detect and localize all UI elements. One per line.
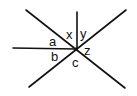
label-angle-b: b xyxy=(51,49,58,64)
label-angle-c: c xyxy=(72,55,79,70)
label-angle-z: z xyxy=(84,43,91,58)
label-angle-y: y xyxy=(80,26,87,41)
angle-diagram: a b c x y z xyxy=(0,0,137,96)
intersection-point xyxy=(74,47,77,50)
label-angle-x: x xyxy=(66,27,73,42)
label-angle-a: a xyxy=(49,34,57,49)
ray-horizontal xyxy=(13,48,76,49)
